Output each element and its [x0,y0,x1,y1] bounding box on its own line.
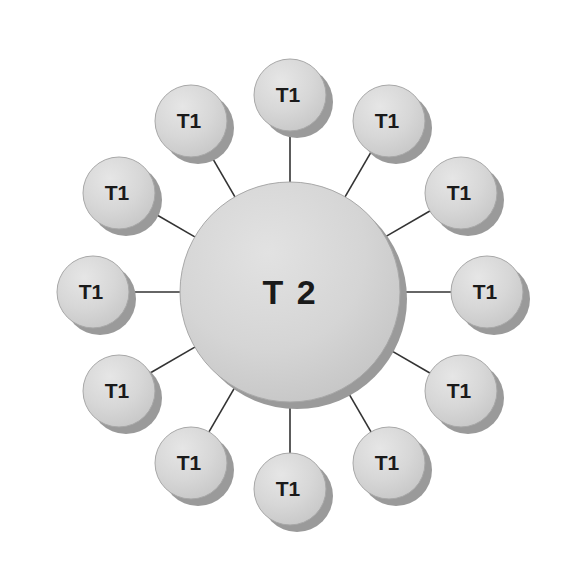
edge-hub-to-leaf-2 [345,151,372,197]
leaf-node-t1-120[interactable]: T1 [155,427,227,499]
leaf-5-circle [425,355,497,427]
leaf-node-t1-90[interactable]: T1 [254,453,326,525]
leaf-8-circle [155,427,227,499]
leaf-9-circle [83,355,155,427]
topology-canvas: T 2T1T1T1T1T1T1T1T1T1T1T1T1 [0,0,576,588]
leaf-6-circle [353,427,425,499]
leaf-node-t1-210[interactable]: T1 [83,157,155,229]
leaf-node-t1--30[interactable]: T1 [425,157,497,229]
edge-hub-to-leaf-9 [149,347,195,374]
leaf-11-circle [83,157,155,229]
leaf-node-t1-150[interactable]: T1 [83,355,155,427]
leaf-12-circle [155,85,227,157]
leaf-4-circle [451,256,523,328]
leaf-node-t1-60[interactable]: T1 [353,427,425,499]
edge-hub-to-leaf-3 [384,211,430,238]
leaf-7-circle [254,453,326,525]
leaf-node-t1-180[interactable]: T1 [57,256,129,328]
leaf-2-circle [353,85,425,157]
leaf-3-circle [425,157,497,229]
leaf-node-t1--60[interactable]: T1 [353,85,425,157]
leaf-10-circle [57,256,129,328]
hub-node-circle [180,182,400,402]
leaf-node-t1-240[interactable]: T1 [155,85,227,157]
node-layer: T 2T1T1T1T1T1T1T1T1T1T1T1T1 [57,59,523,525]
leaf-node-t1--90[interactable]: T1 [254,59,326,131]
edge-hub-to-leaf-8 [209,386,236,432]
hub-node-t2[interactable]: T 2 [180,182,400,402]
leaf-node-t1-30[interactable]: T1 [425,355,497,427]
star-topology-diagram: T 2T1T1T1T1T1T1T1T1T1T1T1T1 [0,0,576,588]
leaf-1-circle [254,59,326,131]
leaf-node-t1-0[interactable]: T1 [451,256,523,328]
